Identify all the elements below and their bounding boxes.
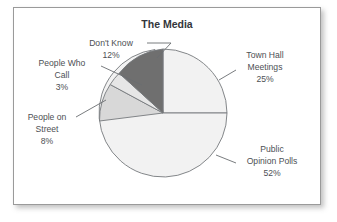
- svg-text:Public: Public: [260, 144, 284, 154]
- svg-text:52%: 52%: [263, 168, 281, 178]
- svg-text:25%: 25%: [256, 74, 274, 84]
- svg-text:Town Hall: Town Hall: [246, 50, 283, 60]
- pie-slice-town-hall-meetings[interactable]: [163, 49, 227, 113]
- pie-label-people-on-street: People on Street 8%: [28, 112, 67, 146]
- svg-text:8%: 8%: [41, 136, 54, 146]
- svg-text:Don't Know: Don't Know: [89, 38, 133, 48]
- chart-figure: The Media Don't Know 12% People Who Call…: [0, 0, 337, 222]
- svg-text:3%: 3%: [56, 82, 69, 92]
- pie-label-town-hall-meetings: Town Hall Meetings 25%: [246, 50, 283, 84]
- leader-line-town-hall-meetings: [219, 70, 236, 80]
- svg-text:Meetings: Meetings: [248, 62, 283, 72]
- pie-label-dont-know: Don't Know 12%: [89, 38, 133, 60]
- svg-text:Street: Street: [36, 124, 60, 134]
- leader-line-public-opinion-polls: [216, 155, 236, 163]
- svg-text:People on: People on: [28, 112, 67, 122]
- pie-label-public-opinion-polls: Public Opinion Polls 52%: [247, 144, 298, 178]
- svg-text:People Who: People Who: [39, 58, 86, 68]
- page-title: The Media: [141, 18, 193, 30]
- svg-text:12%: 12%: [102, 50, 120, 60]
- svg-text:Call: Call: [55, 70, 70, 80]
- pie-chart: The Media Don't Know 12% People Who Call…: [0, 0, 337, 222]
- svg-text:Opinion Polls: Opinion Polls: [247, 156, 298, 166]
- pie-label-people-who-call: People Who Call 3%: [39, 58, 86, 92]
